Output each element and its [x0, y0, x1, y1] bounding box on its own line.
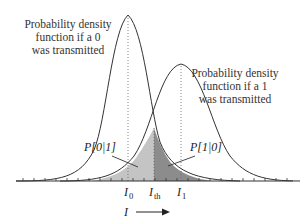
svg-text:Probability density: Probability density — [191, 67, 278, 80]
threshold-value-label: I th — [148, 185, 161, 201]
svg-text:th: th — [154, 191, 161, 201]
arrow-right-icon — [136, 209, 170, 216]
svg-text:Probability density: Probability density — [24, 18, 111, 31]
mean-1-value-label: I 1 — [176, 185, 186, 201]
svg-text:0: 0 — [129, 191, 133, 201]
diagram-canvas: Probability density function if a 0 was … — [0, 0, 308, 222]
svg-text:was transmitted: was transmitted — [32, 44, 105, 56]
region-p0-given-1 — [92, 128, 154, 181]
svg-text:function if a 1: function if a 1 — [203, 80, 268, 92]
curve-1-label: Probability density function if a 1 was … — [191, 67, 278, 105]
region-p1-given-0 — [154, 128, 212, 181]
p0-given-1-label: P[0|1] — [83, 140, 116, 154]
svg-text:1: 1 — [182, 191, 186, 201]
svg-text:was transmitted: was transmitted — [199, 93, 272, 105]
p1-given-0-label: P[1|0] — [189, 140, 222, 154]
curve-0-label: Probability density function if a 0 was … — [24, 18, 111, 56]
svg-text:function if a 0: function if a 0 — [36, 31, 101, 43]
mean-0-value-label: I 0 — [123, 185, 133, 201]
axis-variable-label: I — [123, 205, 129, 219]
